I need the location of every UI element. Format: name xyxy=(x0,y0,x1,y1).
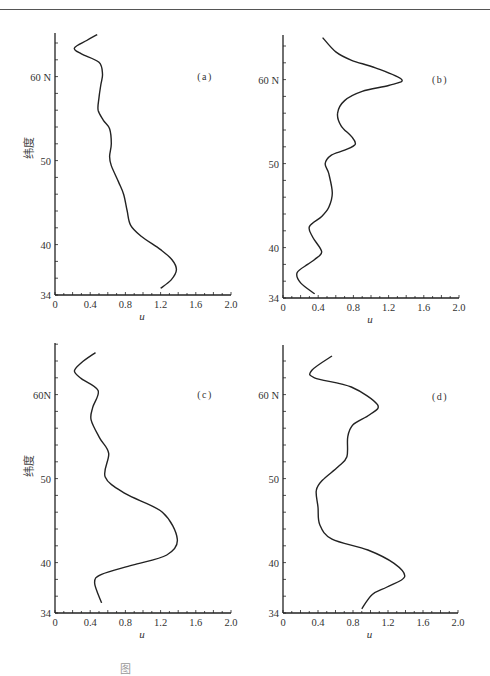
x-tick-label: 0.8 xyxy=(346,617,359,628)
x-axis-label: u xyxy=(367,628,373,640)
x-tick-label: 0.4 xyxy=(312,302,326,313)
x-tick-label: 2.0 xyxy=(224,299,237,310)
data-curve xyxy=(74,353,177,603)
x-tick-label: 1.6 xyxy=(189,617,202,628)
y-tick-label: 60N xyxy=(33,390,52,401)
panel-label: (a) xyxy=(197,71,213,83)
panel-label: (d) xyxy=(432,391,448,403)
figure-caption: 图 xyxy=(120,660,131,676)
panel-a: 00.40.81.21.62.034405060 Nu纬度(a) xyxy=(22,33,238,322)
y-tick-label: 50 xyxy=(269,159,280,170)
x-tick-label: 2.0 xyxy=(224,617,237,628)
y-tick-label: 34 xyxy=(269,608,280,619)
y-tick-label: 34 xyxy=(269,293,280,304)
y-tick-label: 50 xyxy=(269,474,280,485)
x-tick-label: 0.8 xyxy=(119,299,132,310)
y-tick-label: 60 N xyxy=(30,72,51,83)
x-tick-label: 1.6 xyxy=(189,299,202,310)
x-tick-label: 1.2 xyxy=(154,299,167,310)
x-tick-label: 0 xyxy=(52,299,57,310)
x-tick-label: 2.0 xyxy=(452,302,465,313)
x-axis-label: u xyxy=(139,628,145,640)
data-curve xyxy=(310,356,405,609)
x-tick-label: 1.2 xyxy=(154,617,167,628)
panel-c: 00.40.81.21.62.034405060Nu纬度(c) xyxy=(22,343,238,640)
y-tick-label: 60 N xyxy=(258,75,279,86)
data-curve xyxy=(297,38,402,294)
panel-label: (c) xyxy=(197,389,213,401)
x-tick-label: 1.2 xyxy=(381,617,394,628)
y-tick-label: 34 xyxy=(41,290,52,301)
panel-b: 00.40.81.21.62.034405060 Nu(b) xyxy=(258,35,465,325)
y-tick-label: 50 xyxy=(41,474,52,485)
y-axis-label: 纬度 xyxy=(22,455,36,477)
x-tick-label: 0 xyxy=(280,617,285,628)
x-tick-label: 1.2 xyxy=(382,302,395,313)
x-tick-label: 0 xyxy=(52,617,57,628)
x-tick-label: 1.6 xyxy=(417,302,430,313)
y-tick-label: 40 xyxy=(41,240,52,251)
y-tick-label: 40 xyxy=(269,243,280,254)
x-tick-label: 2.0 xyxy=(451,617,464,628)
x-axis-label: u xyxy=(367,313,373,325)
x-axis-label: u xyxy=(139,310,145,322)
x-tick-label: 1.6 xyxy=(416,617,429,628)
x-tick-label: 0.4 xyxy=(84,299,98,310)
x-tick-label: 0.8 xyxy=(347,302,360,313)
panel-label: (b) xyxy=(432,74,448,86)
y-axis-label: 纬度 xyxy=(22,137,36,159)
y-tick-label: 40 xyxy=(269,558,280,569)
x-tick-label: 0.8 xyxy=(119,617,132,628)
x-tick-label: 0.4 xyxy=(311,617,325,628)
panel-d: 00.40.81.21.62.034405060 Nu(d) xyxy=(258,345,464,640)
data-curve xyxy=(74,35,176,289)
y-tick-label: 60 N xyxy=(258,390,279,401)
y-tick-label: 40 xyxy=(41,558,52,569)
x-tick-label: 0 xyxy=(280,302,285,313)
y-tick-label: 50 xyxy=(41,156,52,167)
y-tick-label: 34 xyxy=(41,608,52,619)
x-tick-label: 0.4 xyxy=(84,617,98,628)
